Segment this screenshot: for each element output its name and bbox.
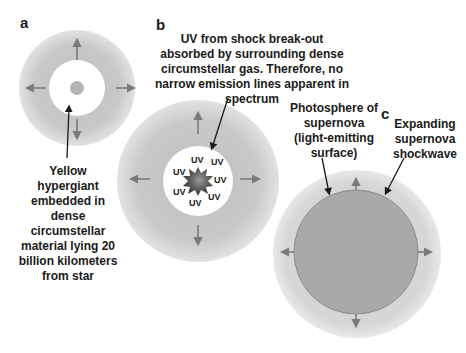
panel-letter-a: a xyxy=(20,14,28,31)
panel-letter-b: b xyxy=(156,16,165,33)
caption-yellow-hypergiant: Yellow hypergiant embedded in dense circ… xyxy=(4,164,132,284)
uv-label: UV xyxy=(208,192,221,202)
uv-label: UV xyxy=(211,157,224,167)
caption-uv-shock-breakout: UV from shock break-out absorbed by surr… xyxy=(152,32,352,107)
supernova-photosphere xyxy=(294,190,418,314)
panel-b: UV UV UV UV UV UV UV xyxy=(117,98,279,262)
caption-shockwave: Expanding supernova shockwave xyxy=(384,117,466,162)
uv-label: UV xyxy=(191,155,204,165)
panel-a xyxy=(19,30,135,158)
hypergiant-star xyxy=(70,81,84,95)
caption-photosphere: Photosphere of supernova (light-emitting… xyxy=(284,101,384,161)
uv-label: UV xyxy=(173,187,186,197)
uv-label: UV xyxy=(189,198,202,208)
panel-c xyxy=(273,158,441,338)
uv-label: UV xyxy=(173,167,186,177)
uv-label: UV xyxy=(214,175,227,185)
